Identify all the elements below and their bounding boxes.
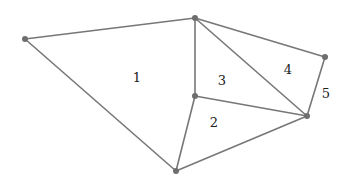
graph-edges bbox=[25, 18, 325, 171]
vertex-F bbox=[173, 168, 179, 174]
edge-A-F bbox=[25, 39, 176, 171]
edge-E-F bbox=[176, 96, 195, 171]
vertex-C bbox=[322, 54, 328, 60]
region-label-2: 2 bbox=[210, 116, 218, 129]
planar-graph-diagram bbox=[0, 0, 339, 182]
edge-B-C bbox=[195, 18, 325, 57]
vertex-E bbox=[192, 93, 198, 99]
edge-E-D bbox=[195, 96, 307, 116]
vertex-D bbox=[304, 113, 310, 119]
region-label-5: 5 bbox=[322, 87, 330, 100]
region-label-1: 1 bbox=[133, 71, 141, 84]
edge-A-B bbox=[25, 18, 195, 39]
region-label-4: 4 bbox=[284, 63, 292, 76]
region-label-3: 3 bbox=[218, 74, 226, 87]
edge-F-D bbox=[176, 116, 307, 171]
vertex-B bbox=[192, 15, 198, 21]
vertex-A bbox=[22, 36, 28, 42]
